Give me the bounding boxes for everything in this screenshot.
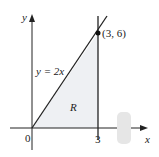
y-axis-label: y <box>22 12 27 23</box>
tick-x-3-label: 3 <box>95 134 101 145</box>
point-label: (3, 6) <box>102 28 126 39</box>
region-label: R <box>70 102 77 113</box>
origin-label: 0 <box>25 133 31 144</box>
point-3-6 <box>96 31 101 36</box>
diagram-canvas <box>0 0 159 157</box>
line-equation-label: y = 2x <box>36 66 64 77</box>
x-axis-label: x <box>145 134 150 145</box>
y-axis-arrow-icon <box>29 14 35 22</box>
watermark-decoration <box>117 112 131 144</box>
x-axis-arrow-icon <box>140 125 148 131</box>
